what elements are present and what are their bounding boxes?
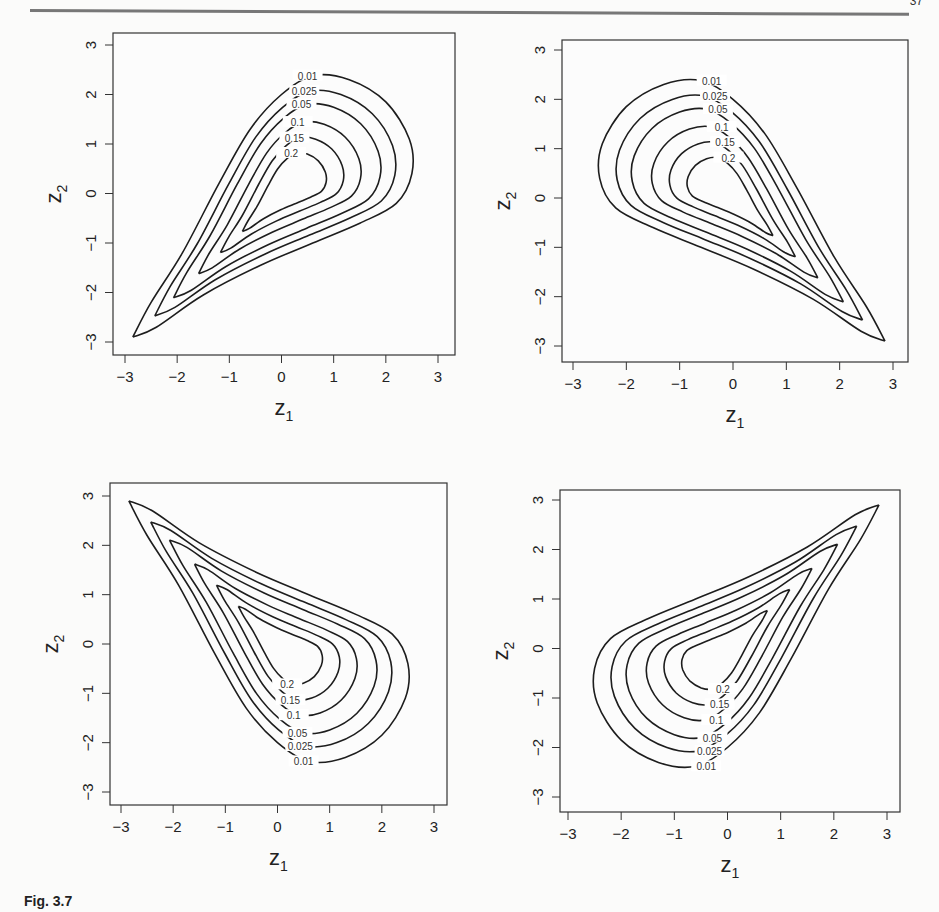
x-tick-label: 3 bbox=[430, 818, 438, 835]
y-tick-label: 2 bbox=[82, 90, 99, 98]
x-tick-label: −2 bbox=[618, 375, 635, 392]
x-tick-label: −2 bbox=[165, 818, 182, 835]
contour-label: 0.025 bbox=[697, 746, 722, 757]
y-axis-label: z2 bbox=[488, 641, 517, 660]
x-tick-label: 1 bbox=[329, 368, 337, 385]
y-tick-label: 1 bbox=[531, 144, 548, 152]
y-tick-label: −3 bbox=[79, 783, 96, 800]
x-tick-label: 1 bbox=[782, 375, 790, 392]
contour-label: 0.05 bbox=[703, 733, 723, 744]
x-tick-label: 0 bbox=[273, 818, 281, 835]
x-axis-label: z1 bbox=[726, 402, 745, 431]
contour-label: 0.15 bbox=[715, 137, 735, 148]
y-tick-label: −3 bbox=[82, 333, 99, 350]
x-tick-label: 0 bbox=[723, 825, 731, 842]
contour-panel-tr: −3−2−10123−3−2−10123z1z20.010.0250.050.1… bbox=[490, 40, 908, 431]
y-axis-label: z2 bbox=[490, 191, 519, 210]
y-axis-label: z2 bbox=[41, 184, 70, 203]
figure-canvas: −3−2−10123−3−2−10123z1z20.010.0250.050.1… bbox=[0, 0, 939, 912]
x-tick-label: 3 bbox=[883, 825, 891, 842]
x-tick-label: 2 bbox=[378, 818, 386, 835]
y-tick-label: 1 bbox=[82, 140, 99, 148]
y-tick-label: 0 bbox=[529, 644, 546, 652]
contour-label: 0.1 bbox=[709, 715, 723, 726]
contour-label: 0.2 bbox=[722, 153, 736, 164]
contour-label: 0.15 bbox=[281, 695, 301, 706]
contour-label: 0.025 bbox=[292, 86, 317, 97]
y-tick-label: 0 bbox=[531, 194, 548, 202]
contour-label: 0.15 bbox=[710, 699, 730, 710]
x-tick-label: 2 bbox=[382, 368, 390, 385]
y-tick-label: −2 bbox=[529, 739, 546, 756]
x-tick-label: −1 bbox=[217, 818, 234, 835]
y-tick-label: −1 bbox=[529, 689, 546, 706]
contour-label: 0.2 bbox=[716, 684, 730, 695]
plot-frame bbox=[562, 40, 908, 362]
x-tick-label: 2 bbox=[830, 825, 838, 842]
x-tick-label: −3 bbox=[564, 375, 581, 392]
y-tick-label: 1 bbox=[79, 590, 96, 598]
y-tick-label: −2 bbox=[82, 284, 99, 301]
x-tick-label: 2 bbox=[835, 375, 843, 392]
contour-panel-bl: −3−2−10123−3−2−10123z1z20.010.0250.050.1… bbox=[38, 483, 447, 874]
contour-label: 0.01 bbox=[294, 756, 314, 767]
plot-frame bbox=[110, 483, 447, 805]
contour-label: 0.01 bbox=[696, 761, 716, 772]
x-tick-label: −1 bbox=[666, 825, 683, 842]
x-tick-label: −1 bbox=[221, 368, 238, 385]
contour-label: 0.2 bbox=[280, 679, 294, 690]
contour-label: 0.01 bbox=[298, 71, 318, 82]
x-axis-label: z1 bbox=[721, 852, 740, 881]
contour-label: 0.2 bbox=[284, 148, 298, 159]
y-tick-label: −1 bbox=[531, 239, 548, 256]
x-tick-label: −3 bbox=[116, 368, 133, 385]
x-tick-label: −2 bbox=[169, 368, 186, 385]
x-tick-label: −2 bbox=[613, 825, 630, 842]
figure-caption: Fig. 3.7 bbox=[24, 893, 72, 909]
y-tick-label: 3 bbox=[82, 41, 99, 49]
y-tick-label: 0 bbox=[79, 640, 96, 648]
x-tick-label: 1 bbox=[325, 818, 333, 835]
y-tick-label: −3 bbox=[531, 337, 548, 354]
y-tick-label: −1 bbox=[79, 685, 96, 702]
y-tick-label: 0 bbox=[82, 189, 99, 197]
y-tick-label: 2 bbox=[529, 545, 546, 553]
contour-label: 0.1 bbox=[287, 710, 301, 721]
x-tick-label: −3 bbox=[559, 825, 576, 842]
contour-panel-br: −3−2−10123−3−2−10123z1z20.010.0250.050.1… bbox=[488, 490, 900, 881]
contour-label: 0.01 bbox=[702, 76, 722, 87]
y-tick-label: 3 bbox=[529, 496, 546, 504]
contour-label: 0.025 bbox=[288, 741, 313, 752]
contour-label: 0.05 bbox=[292, 99, 312, 110]
contour-panel-tl: −3−2−10123−3−2−10123z1z20.010.0250.050.1… bbox=[41, 33, 455, 424]
y-tick-label: −2 bbox=[531, 288, 548, 305]
x-tick-label: −1 bbox=[671, 375, 688, 392]
contour-label: 0.1 bbox=[291, 117, 305, 128]
x-tick-label: 3 bbox=[434, 368, 442, 385]
contour-label: 0.05 bbox=[708, 104, 728, 115]
contour-label: 0.05 bbox=[288, 728, 308, 739]
y-tick-label: 3 bbox=[79, 492, 96, 500]
y-tick-label: 1 bbox=[529, 595, 546, 603]
y-tick-label: −1 bbox=[82, 234, 99, 251]
y-tick-label: −3 bbox=[529, 788, 546, 805]
y-tick-label: −2 bbox=[79, 734, 96, 751]
x-tick-label: 0 bbox=[277, 368, 285, 385]
x-axis-label: z1 bbox=[275, 395, 294, 424]
y-tick-label: 2 bbox=[531, 95, 548, 103]
plot-frame bbox=[560, 490, 900, 812]
x-tick-label: 3 bbox=[889, 375, 897, 392]
y-axis-label: z2 bbox=[38, 634, 67, 653]
x-axis-label: z1 bbox=[269, 845, 288, 874]
y-tick-label: 3 bbox=[531, 46, 548, 54]
x-tick-label: −3 bbox=[112, 818, 129, 835]
x-tick-label: 0 bbox=[729, 375, 737, 392]
contour-label: 0.15 bbox=[285, 133, 305, 144]
contour-label: 0.025 bbox=[703, 91, 728, 102]
x-tick-label: 1 bbox=[776, 825, 784, 842]
contour-label: 0.1 bbox=[715, 122, 729, 133]
y-tick-label: 2 bbox=[79, 541, 96, 549]
